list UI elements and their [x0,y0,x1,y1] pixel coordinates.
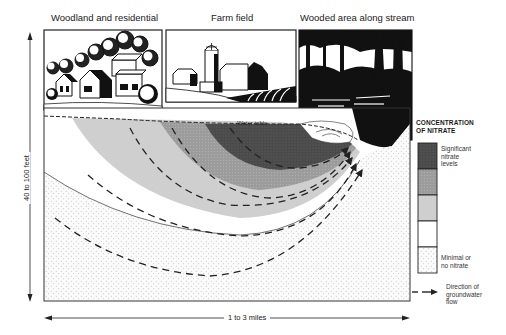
legend-title-line2: OF NITRATE [416,127,474,135]
panel-title-stream: Wooded area along stream [300,12,414,23]
legend-title-line1: CONCENTRATION [416,119,474,127]
legend-high-label: Significant nitrate levels [441,145,471,168]
panel-title-woodland: Woodland and residential [51,12,158,23]
legend-flow-label: Direction of groundwater flow [446,283,482,306]
woodland-residential-illustration [44,30,162,110]
legend-swatch-low [418,221,437,247]
legend-flow-line2: groundwater [446,291,482,299]
distance-scale-label: 1 to 3 miles [224,313,270,322]
legend-flow-line1: Direction of [446,283,482,291]
legend-swatch-minimal [418,247,437,273]
legend-flow-arrow-icon [412,289,438,295]
depth-scale-label: 40 to 100 feet [22,152,31,204]
nitrate-legend-swatches [418,143,437,273]
legend-swatch-highest [418,143,437,169]
legend-high-line3: levels [441,160,471,168]
water-table-label: Water table [237,120,267,126]
legend-low-line2: no nitrate [441,262,471,270]
legend-low-label: Minimal or no nitrate [441,254,471,269]
legend-high-line1: Significant [441,145,471,153]
cross-section-diagram [0,0,506,335]
panel-title-farm: Farm field [211,12,253,23]
legend-title: CONCENTRATION OF NITRATE [416,119,474,134]
farm-field-illustration [166,30,296,102]
legend-low-line1: Minimal or [441,254,471,262]
legend-flow-line3: flow [446,298,482,306]
legend-swatch-medium [418,195,437,221]
groundwater-cross-section [44,108,410,301]
legend-high-line2: nitrate [441,153,471,161]
legend-swatch-high [418,169,437,195]
